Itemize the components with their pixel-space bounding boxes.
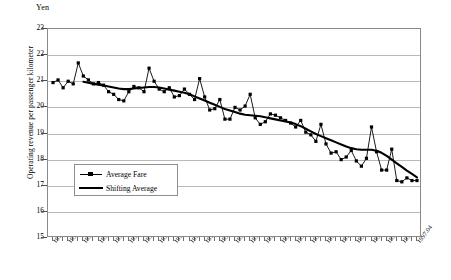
data-point-marker xyxy=(309,133,312,136)
data-point-marker xyxy=(147,67,150,70)
data-point-marker xyxy=(405,176,408,179)
data-point-marker xyxy=(294,125,297,128)
data-point-marker xyxy=(249,93,252,96)
legend-item-average-fare: Average Fare xyxy=(78,167,174,181)
data-point-marker xyxy=(370,125,373,128)
data-series-layer xyxy=(48,29,422,238)
data-point-marker xyxy=(299,119,302,122)
data-point-marker xyxy=(274,114,277,117)
data-point-marker xyxy=(319,123,322,126)
data-point-marker xyxy=(213,107,216,110)
data-point-marker xyxy=(87,78,90,81)
data-point-marker xyxy=(62,86,65,89)
data-point-marker xyxy=(183,87,186,90)
data-point-marker xyxy=(360,165,363,168)
data-point-marker xyxy=(259,123,262,126)
data-point-marker xyxy=(203,95,206,98)
data-point-marker xyxy=(279,116,282,119)
data-point-marker xyxy=(218,98,221,101)
data-point-marker xyxy=(380,168,383,171)
data-point-marker xyxy=(107,90,110,93)
data-point-marker xyxy=(345,155,348,158)
data-point-marker xyxy=(244,104,247,107)
data-point-marker xyxy=(193,98,196,101)
data-point-marker xyxy=(264,120,267,123)
legend-label-shifting-average: Shifting Average xyxy=(106,184,157,193)
data-point-marker xyxy=(314,140,317,143)
data-point-marker xyxy=(355,159,358,162)
legend-item-shifting-average: Shifting Average xyxy=(78,181,174,195)
y-axis-unit-label: Yen xyxy=(36,3,49,12)
data-point-marker xyxy=(415,179,418,182)
data-point-marker xyxy=(117,98,120,101)
data-point-marker xyxy=(269,112,272,115)
data-point-marker xyxy=(153,80,156,83)
data-point-marker xyxy=(385,168,388,171)
data-point-marker xyxy=(304,131,307,134)
legend-marker-square-icon xyxy=(78,169,104,179)
data-point-marker xyxy=(142,90,145,93)
data-point-marker xyxy=(340,158,343,161)
data-point-marker xyxy=(324,142,327,145)
data-point-marker xyxy=(72,82,75,85)
data-point-marker xyxy=(51,81,54,84)
chart-legend: Average Fare Shifting Average xyxy=(74,164,178,196)
data-point-marker xyxy=(410,179,413,182)
data-point-marker xyxy=(395,179,398,182)
data-point-marker xyxy=(56,78,59,81)
data-point-marker xyxy=(82,74,85,77)
data-point-marker xyxy=(329,151,332,154)
chart-container: Yen Operating revenue per passenger kilo… xyxy=(0,0,451,280)
data-point-marker xyxy=(173,95,176,98)
data-point-marker xyxy=(198,77,201,80)
data-point-marker xyxy=(208,108,211,111)
data-point-marker xyxy=(67,80,70,83)
data-point-marker xyxy=(178,94,181,97)
data-point-marker xyxy=(77,61,80,64)
data-point-marker xyxy=(390,148,393,151)
data-point-marker xyxy=(163,90,166,93)
data-point-marker xyxy=(228,118,231,121)
legend-thick-line-icon xyxy=(78,183,104,193)
data-point-marker xyxy=(233,106,236,109)
data-point-marker xyxy=(365,157,368,160)
data-point-marker xyxy=(223,118,226,121)
plot-area xyxy=(47,28,421,237)
legend-label-average-fare: Average Fare xyxy=(106,170,147,179)
data-point-marker xyxy=(122,99,125,102)
y-axis-tick-mark xyxy=(41,237,47,238)
data-point-marker xyxy=(335,150,338,153)
data-point-marker xyxy=(238,108,241,111)
data-point-marker xyxy=(112,93,115,96)
data-point-marker xyxy=(127,90,130,93)
data-point-marker xyxy=(400,180,403,183)
